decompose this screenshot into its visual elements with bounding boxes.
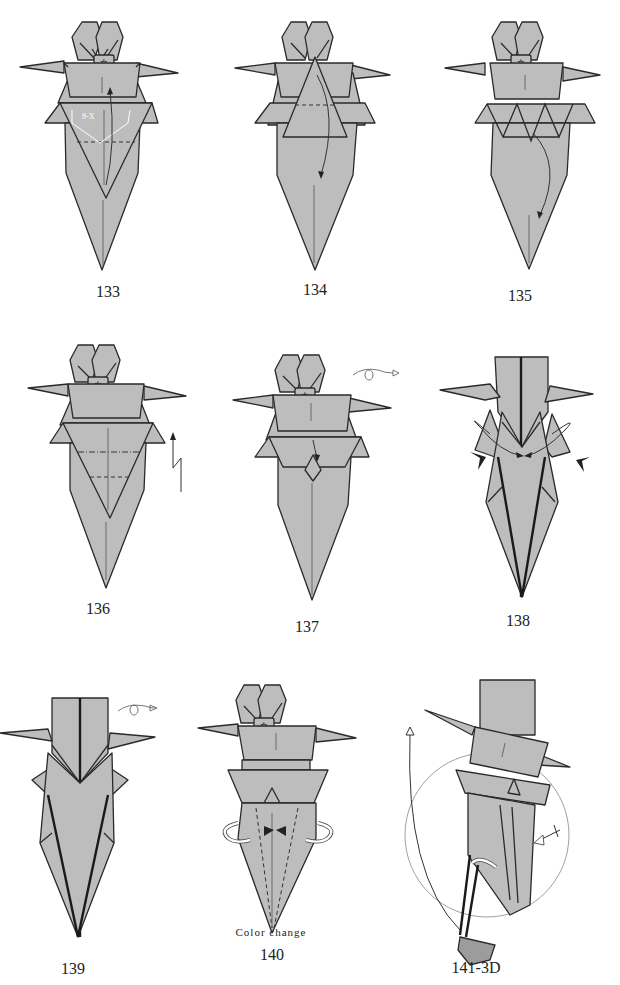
step-number: 141-3D — [436, 959, 516, 977]
step-number: 139 — [33, 960, 113, 978]
turn-over-icon — [118, 705, 157, 715]
step-number: 134 — [275, 281, 355, 299]
step-141-3d: 141-3D — [400, 675, 615, 965]
step-number: 133 — [68, 283, 148, 301]
step-number: 135 — [480, 287, 560, 305]
step-number: 140 — [232, 946, 312, 964]
step-number: 136 — [58, 600, 138, 618]
step-138: 138 — [440, 352, 610, 602]
origami-diagram-138 — [440, 352, 610, 602]
step-135: ✲ 135 — [445, 15, 615, 275]
step-136: ✲ 136 — [28, 340, 198, 590]
turn-over-icon — [353, 369, 399, 380]
color-change-note: Color change — [221, 926, 321, 938]
angle-mark: 8-X — [82, 112, 95, 121]
step-number: 137 — [267, 618, 347, 636]
step-134: 134 — [235, 15, 405, 275]
origami-diagram-139 — [0, 693, 170, 943]
origami-diagram-141-3d — [400, 675, 615, 965]
origami-diagram-140: ✲ — [198, 678, 368, 938]
step-140: ✲ Color change 140 — [198, 678, 368, 938]
step-137: ✲ 137 — [233, 355, 403, 610]
origami-diagram-133: ✲ 8-X — [20, 15, 190, 275]
step-133: ✲ 8-X 133 — [20, 15, 190, 275]
step-139: 139 — [0, 693, 170, 943]
origami-diagram-135: ✲ — [445, 15, 615, 275]
origami-diagram-134 — [235, 15, 405, 275]
origami-diagram-137: ✲ — [233, 355, 403, 610]
origami-diagram-136: ✲ — [28, 340, 198, 590]
step-number: 138 — [478, 612, 558, 630]
